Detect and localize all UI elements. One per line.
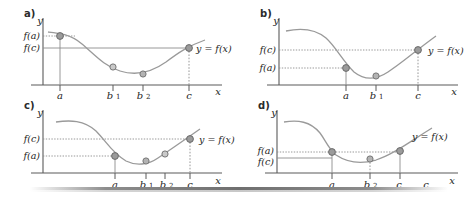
point-b2 [367,156,373,162]
curve-label: y = f(x) [195,43,232,54]
point-c [415,47,422,54]
value-label-fc: f(c) [259,44,277,55]
point-a [57,33,64,40]
function-curve [48,32,205,73]
panel-a: a) y x f(a) f(c) [0,0,236,99]
value-label-fa: f(a) [258,62,276,73]
value-label-fa: f(a) [22,30,40,41]
curve-label: y = f(x) [198,134,235,145]
y-axis-label: y [36,15,43,26]
y-axis-label: y [270,107,277,118]
point-b2 [140,71,146,77]
curve-label: y = f(x) [427,45,464,56]
point-b1 [373,73,379,79]
value-label-fc: f(c) [257,156,275,167]
value-label-fc: f(c) [23,133,41,144]
panel-d: d) y x f(a) f(c) a b 2 c c y = f(x) [236,95,471,189]
point-b2 [162,151,168,157]
bottom-divider-shadow [30,190,448,192]
point-a [343,65,350,72]
point-a [329,149,336,156]
point-c [397,148,404,155]
panel-b-plot: y x f(c) f(a) a b 1 c y = f(x) [236,0,471,99]
function-curve [286,29,436,78]
value-label-fa: f(a) [256,145,274,156]
function-curve [284,121,432,162]
point-b1 [143,158,149,164]
point-c [187,136,194,143]
value-label-fa: f(a) [22,150,40,161]
y-axis-label: y [272,15,279,26]
panel-c-plot: y x f(c) f(a) a b 1 b 2 c y = f(x) [0,95,236,189]
point-c [186,45,193,52]
panel-d-plot: y x f(a) f(c) a b 2 c c y = f(x) [236,95,471,189]
x-axis-label: x [215,175,221,186]
y-axis-label: y [36,107,43,118]
panel-b: b) y x f(c) f(a) a b 1 c y = f(x) [236,0,471,99]
figure-four-panel-function-graphs: a) y x f(a) f(c) [0,0,471,199]
panel-a-plot: y x f(a) f(c) a b 1 b 2 c y = f(x) [0,0,236,99]
function-curve [56,121,200,164]
panel-c: c) y x f(c) f(a) a b 1 b 2 c [0,95,236,189]
x-axis-label: x [449,175,455,186]
point-a [112,153,119,160]
value-label-fc: f(c) [23,42,41,53]
point-b1 [110,64,116,70]
curve-label: y = f(x) [411,131,448,142]
